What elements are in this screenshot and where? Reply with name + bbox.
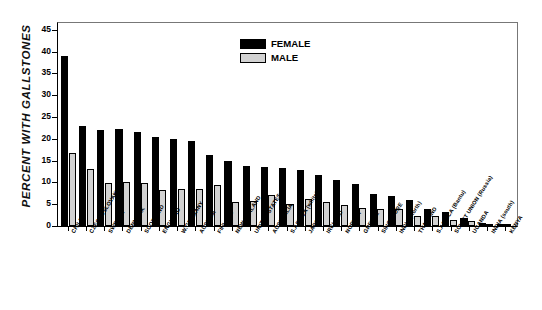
bar-group[interactable] bbox=[370, 23, 388, 226]
bar-group[interactable] bbox=[406, 23, 424, 226]
y-tick-label: 30 bbox=[42, 89, 51, 99]
y-tick-label: 10 bbox=[42, 176, 51, 186]
y-tick-label: 45 bbox=[42, 24, 51, 34]
bar-group[interactable] bbox=[333, 23, 351, 226]
x-axis-labels: CHILECZECHOSLOVAKIASWEDENDENMARKSCOTLAND… bbox=[57, 231, 518, 310]
bar-group[interactable] bbox=[79, 23, 97, 226]
bar-group[interactable] bbox=[115, 23, 133, 226]
y-tick-label: 0 bbox=[46, 220, 51, 230]
bar-group[interactable] bbox=[424, 23, 442, 226]
legend-item-male: MALE bbox=[240, 52, 310, 63]
y-axis-title: PERCENT WITH GALLSTONES bbox=[20, 16, 32, 216]
bar-male[interactable] bbox=[69, 153, 76, 226]
bar-group[interactable] bbox=[188, 23, 206, 226]
y-tick-label: 20 bbox=[42, 133, 51, 143]
bar-group[interactable] bbox=[152, 23, 170, 226]
legend-swatch-male bbox=[240, 53, 266, 63]
chart-legend: FEMALE MALE bbox=[240, 38, 310, 66]
bar-male[interactable] bbox=[341, 205, 348, 226]
y-tick-label: 5 bbox=[46, 198, 51, 208]
legend-swatch-female bbox=[240, 39, 266, 49]
y-tick-label: 40 bbox=[42, 46, 51, 56]
bar-group[interactable] bbox=[61, 23, 79, 226]
bar-male[interactable] bbox=[87, 169, 94, 226]
bar-female[interactable] bbox=[79, 126, 86, 226]
bar-group[interactable] bbox=[352, 23, 370, 226]
bar-group[interactable] bbox=[497, 23, 515, 226]
bar-male[interactable] bbox=[141, 183, 148, 226]
legend-label-female: FEMALE bbox=[271, 38, 310, 49]
bar-male[interactable] bbox=[123, 182, 130, 226]
bar-group[interactable] bbox=[134, 23, 152, 226]
bar-male[interactable] bbox=[214, 185, 221, 226]
y-tick-label: 35 bbox=[42, 67, 51, 77]
bar-group[interactable] bbox=[206, 23, 224, 226]
bar-group[interactable] bbox=[388, 23, 406, 226]
bar-female[interactable] bbox=[61, 56, 68, 226]
legend-label-male: MALE bbox=[271, 52, 298, 63]
y-tick-label: 15 bbox=[42, 155, 51, 165]
chart-figure: PERCENT WITH GALLSTONES 0510152025303540… bbox=[0, 0, 542, 310]
legend-item-female: FEMALE bbox=[240, 38, 310, 49]
bar-group[interactable] bbox=[170, 23, 188, 226]
y-tick-label: 25 bbox=[42, 111, 51, 121]
